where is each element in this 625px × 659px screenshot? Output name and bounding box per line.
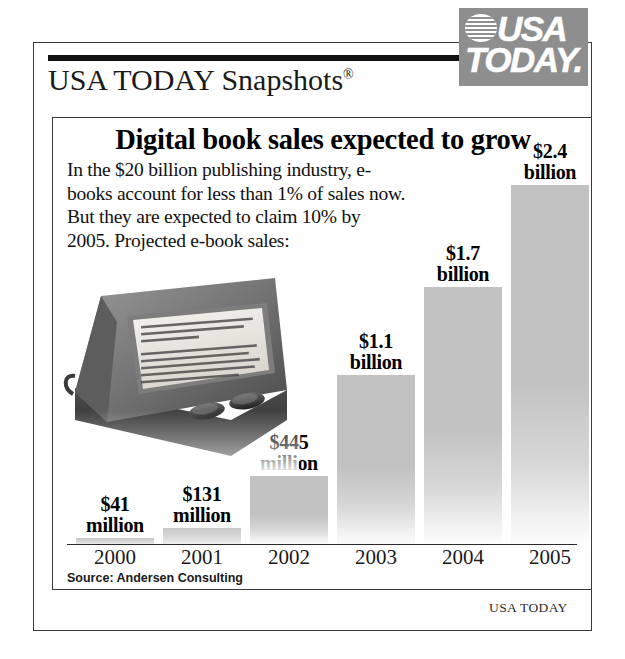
source-note: Source: Andersen Consulting (67, 571, 243, 586)
x-tick-2004: 2004 (424, 546, 502, 568)
bar-amount-2005: $2.4 (533, 140, 567, 162)
bar-2005 (511, 185, 589, 545)
bar-2003 (337, 375, 415, 545)
chart-panel: Digital book sales expected to grow In t… (52, 117, 592, 590)
brand-title-text: USA TODAY Snapshots (48, 63, 343, 96)
bar-unit-2003: billion (350, 351, 402, 373)
registered-trademark-icon: ® (343, 67, 354, 82)
e-book-reader-illustration (61, 270, 299, 475)
bar-label-2000: $41million (76, 494, 154, 536)
bar-2004 (424, 287, 502, 545)
usa-today-logo: USA TODAY. (459, 8, 588, 86)
bar-label-2001: $131million (163, 484, 241, 526)
x-tick-2000: 2000 (76, 546, 154, 568)
x-tick-2001: 2001 (163, 546, 241, 568)
bar-2001 (163, 528, 241, 545)
x-tick-2002: 2002 (250, 546, 328, 568)
bar-label-2004: $1.7billion (424, 243, 502, 285)
bar-amount-2000: $41 (100, 493, 129, 515)
snapshot-infographic: USA TODAY. USA TODAY Snapshots® Digital … (0, 0, 625, 659)
bar-unit-2004: billion (437, 263, 489, 285)
bar-amount-2003: $1.1 (359, 330, 393, 352)
x-tick-2005: 2005 (511, 546, 589, 568)
bar-label-2005: $2.4billion (511, 141, 589, 183)
striped-circle-icon (465, 14, 497, 42)
bar-label-2003: $1.1billion (337, 331, 415, 373)
bar-2002 (250, 476, 328, 545)
bar-amount-2004: $1.7 (446, 242, 480, 264)
bar-unit-2001: million (173, 504, 231, 526)
bar-amount-2001: $131 (183, 483, 222, 505)
x-tick-2003: 2003 (337, 546, 415, 568)
bar-unit-2005: billion (524, 161, 576, 183)
x-axis-line (67, 544, 577, 546)
usa-today-logo-inner: USA TODAY. (459, 8, 588, 86)
bar-unit-2000: million (86, 514, 144, 536)
usa-today-logo-line2: TODAY. (465, 42, 582, 78)
footer-credit: USA TODAY (489, 600, 568, 616)
brand-title: USA TODAY Snapshots® (48, 62, 354, 98)
